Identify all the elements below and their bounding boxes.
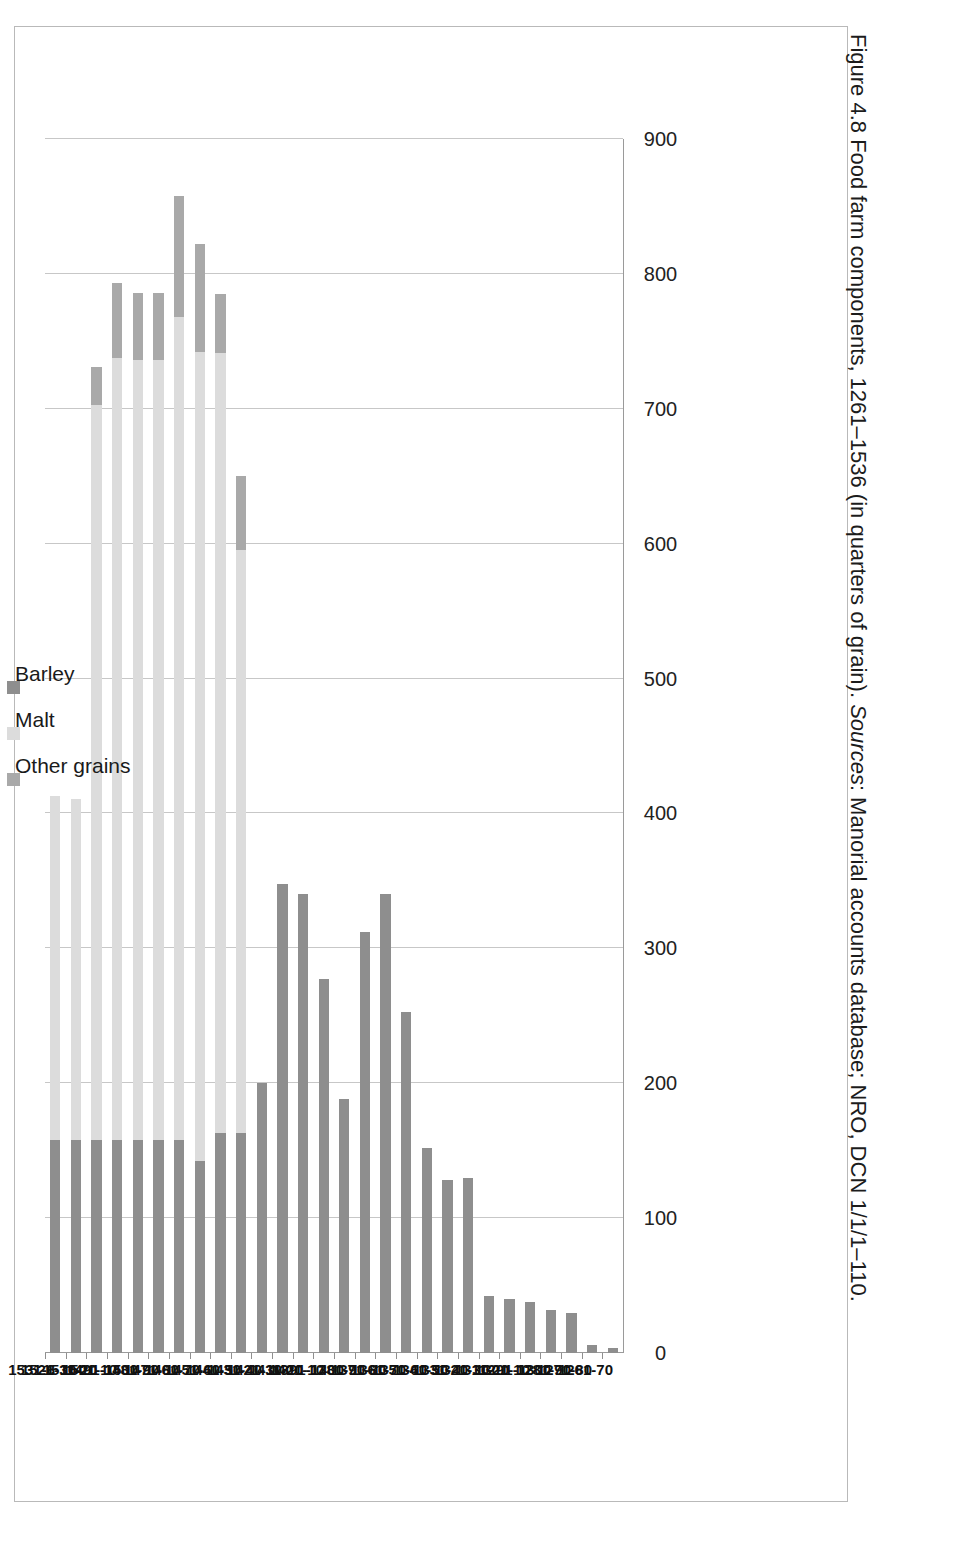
- category-tick: [293, 1353, 294, 1359]
- gridline: [45, 947, 623, 948]
- value-axis-tick-label: 300: [633, 937, 689, 960]
- figure-page: 01002003004005006007008009001261-701271-…: [0, 0, 961, 1558]
- gridline: [45, 273, 623, 274]
- bar-segment-barley: [442, 1180, 452, 1353]
- bar-segment-barley: [339, 1099, 349, 1353]
- gridline: [45, 138, 623, 139]
- bar-stack: [153, 139, 163, 1353]
- bar-stack: [339, 139, 349, 1353]
- category-tick: [437, 1353, 438, 1359]
- category-tick: [107, 1353, 108, 1359]
- gridline: [45, 678, 623, 679]
- plot-area: 01002003004005006007008009001261-701271-…: [45, 139, 623, 1353]
- bar-segment-barley: [277, 884, 287, 1353]
- bar-stack: [174, 139, 184, 1353]
- bar-stack: [442, 139, 452, 1353]
- value-axis-tick-label: 0: [633, 1342, 689, 1365]
- gridline: [45, 408, 623, 409]
- legend-item: Other grains: [7, 766, 20, 786]
- rotated-chart-group: 01002003004005006007008009001261-701271-…: [15, 27, 849, 1503]
- value-axis-tick-label: 800: [633, 262, 689, 285]
- bar-segment-malt: [112, 358, 122, 1140]
- bar-segment-other-grains: [236, 476, 246, 550]
- bar-stack: [484, 139, 494, 1353]
- bar-segment-malt: [71, 799, 81, 1140]
- category-tick: [251, 1353, 252, 1359]
- category-tick: [396, 1353, 397, 1359]
- category-tick: [190, 1353, 191, 1359]
- bar-segment-barley: [422, 1148, 432, 1353]
- figure-frame: 01002003004005006007008009001261-701271-…: [14, 26, 848, 1502]
- bar-stack: [546, 139, 556, 1353]
- bar-stack: [401, 139, 411, 1353]
- bar-segment-barley: [608, 1348, 618, 1353]
- bar-stack: [319, 139, 329, 1353]
- bar-segment-barley: [298, 894, 308, 1353]
- bar-stack: [112, 139, 122, 1353]
- category-tick: [355, 1353, 356, 1359]
- category-tick: [169, 1353, 170, 1359]
- category-tick: [520, 1353, 521, 1359]
- bar-segment-barley: [463, 1178, 473, 1353]
- category-axis-label: 1531-6: [9, 1361, 56, 1378]
- bar-segment-barley: [587, 1345, 597, 1353]
- bar-segment-malt: [236, 550, 246, 1133]
- bar-segment-barley: [546, 1310, 556, 1353]
- bar-segment-malt: [50, 796, 60, 1140]
- gridline: [45, 1217, 623, 1218]
- value-axis-tick-label: 600: [633, 532, 689, 555]
- bar-segment-barley: [91, 1140, 101, 1353]
- figure-caption: Figure 4.8 Food farm components, 1261–15…: [843, 34, 872, 1494]
- bar-segment-malt: [133, 360, 143, 1140]
- bar-segment-barley: [504, 1299, 514, 1353]
- category-tick: [334, 1353, 335, 1359]
- bar-stack: [587, 139, 597, 1353]
- bar-segment-malt: [153, 360, 163, 1140]
- value-axis-tick-label: 500: [633, 667, 689, 690]
- bar-segment-malt: [174, 317, 184, 1140]
- category-tick: [148, 1353, 149, 1359]
- bar-segment-barley: [401, 1012, 411, 1353]
- bar-stack: [195, 139, 205, 1353]
- bar-stack: [91, 139, 101, 1353]
- bar-stack: [133, 139, 143, 1353]
- bar-segment-barley: [174, 1140, 184, 1353]
- bar-segment-other-grains: [174, 196, 184, 317]
- category-tick: [561, 1353, 562, 1359]
- bar-segment-other-grains: [215, 294, 225, 353]
- category-tick: [313, 1353, 314, 1359]
- bar-segment-barley: [236, 1133, 246, 1353]
- value-axis-tick-label: 200: [633, 1072, 689, 1095]
- legend-item: Barley: [7, 674, 20, 694]
- category-tick: [86, 1353, 87, 1359]
- category-tick: [45, 1353, 46, 1359]
- bar-segment-other-grains: [153, 293, 163, 360]
- bar-segment-malt: [215, 353, 225, 1133]
- bar-segment-other-grains: [91, 367, 101, 405]
- bar-stack: [463, 139, 473, 1353]
- bar-stack: [422, 139, 432, 1353]
- value-axis-tick-label: 400: [633, 802, 689, 825]
- bar-segment-barley: [71, 1140, 81, 1353]
- bar-segment-barley: [380, 894, 390, 1353]
- value-axis-line: [623, 139, 624, 1353]
- bar-stack: [525, 139, 535, 1353]
- bar-stack: [236, 139, 246, 1353]
- category-tick: [210, 1353, 211, 1359]
- bar-segment-barley: [215, 1133, 225, 1353]
- bar-segment-barley: [195, 1161, 205, 1353]
- category-tick: [582, 1353, 583, 1359]
- bar-segment-barley: [153, 1140, 163, 1353]
- caption-sources-label: Sources: [846, 704, 871, 785]
- legend-label: Other grains: [15, 754, 131, 778]
- category-tick: [540, 1353, 541, 1359]
- bar-stack: [380, 139, 390, 1353]
- caption-main: Figure 4.8 Food farm components, 1261–15…: [846, 34, 871, 698]
- category-tick: [499, 1353, 500, 1359]
- category-tick: [128, 1353, 129, 1359]
- bar-segment-barley: [360, 932, 370, 1353]
- bar-stack: [50, 139, 60, 1353]
- bar-stack: [360, 139, 370, 1353]
- bar-stack: [298, 139, 308, 1353]
- gridline: [45, 1082, 623, 1083]
